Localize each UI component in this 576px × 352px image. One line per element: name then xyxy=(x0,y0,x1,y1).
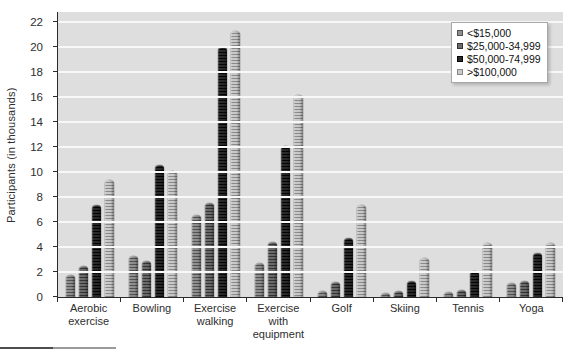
legend-item: >$100,000 xyxy=(457,65,541,78)
bar-group xyxy=(247,12,310,297)
y-axis-tick xyxy=(53,21,58,22)
bar-group xyxy=(311,12,374,297)
y-axis-tick xyxy=(53,71,58,72)
y-tick-label: 0 xyxy=(3,291,43,303)
bar xyxy=(318,291,327,297)
x-category-label: Golf xyxy=(310,302,373,315)
bar xyxy=(331,282,340,297)
y-axis-tick xyxy=(53,246,58,247)
bar xyxy=(142,261,151,297)
bar xyxy=(66,275,75,298)
y-axis-tick xyxy=(53,96,58,97)
bar xyxy=(507,283,516,297)
x-category-label: Yoga xyxy=(500,302,563,315)
gridline xyxy=(58,271,563,273)
legend-item-label: <$15,000 xyxy=(467,27,511,39)
gridline xyxy=(58,96,563,98)
x-category-label: Tennis xyxy=(437,302,500,315)
y-tick-label: 22 xyxy=(3,16,43,28)
bar xyxy=(168,171,177,297)
y-tick-label: 4 xyxy=(3,241,43,253)
y-tick-label: 16 xyxy=(3,91,43,103)
y-axis-tick xyxy=(53,271,58,272)
bar xyxy=(92,205,101,298)
bar-group xyxy=(58,12,121,297)
gridline xyxy=(58,196,563,198)
x-axis-category-labels: Aerobic exerciseBowlingExercise walkingE… xyxy=(57,302,563,348)
gridline xyxy=(58,146,563,148)
bar xyxy=(394,291,403,297)
y-axis-tick xyxy=(53,146,58,147)
y-axis-tick xyxy=(53,196,58,197)
chart-figure: Participants (in thousands) 024681012141… xyxy=(0,0,576,352)
gridline xyxy=(58,121,563,123)
legend-item-label: $50,000-74,999 xyxy=(467,53,541,65)
bar xyxy=(357,205,366,298)
bar xyxy=(444,292,453,297)
x-category-label: Skiing xyxy=(373,302,436,315)
x-category-label: Exercise with equipment xyxy=(247,302,310,341)
legend-marker xyxy=(457,56,463,62)
y-axis-tick xyxy=(53,46,58,47)
y-axis-tick xyxy=(53,171,58,172)
bar-group xyxy=(184,12,247,297)
y-tick-label: 12 xyxy=(3,141,43,153)
legend-marker xyxy=(457,69,463,75)
legend-item-label: >$100,000 xyxy=(467,66,517,78)
page-artifact-line xyxy=(0,347,116,349)
y-axis-tick-labels: 0246810121416182022 xyxy=(0,12,52,298)
bar xyxy=(155,165,164,298)
legend-item: <$15,000 xyxy=(457,26,541,39)
legend-item-label: $25,000-34,999 xyxy=(467,40,541,52)
bar xyxy=(268,242,277,297)
gridline xyxy=(58,246,563,248)
y-axis-tick xyxy=(53,121,58,122)
bar xyxy=(407,281,416,297)
bar-group xyxy=(121,12,184,297)
bar xyxy=(381,293,390,297)
bar xyxy=(129,256,138,297)
y-axis-tick xyxy=(53,221,58,222)
legend-item: $50,000-74,999 xyxy=(457,52,541,65)
gridline xyxy=(58,221,563,223)
bar xyxy=(192,215,201,298)
bar xyxy=(470,271,479,297)
y-tick-label: 8 xyxy=(3,191,43,203)
bar xyxy=(255,263,264,297)
y-tick-label: 18 xyxy=(3,66,43,78)
gridline xyxy=(58,171,563,173)
legend-marker xyxy=(457,30,463,36)
bar xyxy=(520,281,529,297)
bar xyxy=(533,253,542,297)
y-tick-label: 2 xyxy=(3,266,43,278)
y-tick-label: 10 xyxy=(3,166,43,178)
bar xyxy=(420,258,429,297)
y-tick-label: 20 xyxy=(3,41,43,53)
bar-group xyxy=(374,12,437,297)
x-category-label: Aerobic exercise xyxy=(57,302,120,328)
y-tick-label: 14 xyxy=(3,116,43,128)
y-tick-label: 6 xyxy=(3,216,43,228)
bar xyxy=(457,290,466,298)
x-category-label: Exercise walking xyxy=(184,302,247,328)
legend: <$15,000$25,000-34,999$50,000-74,999>$10… xyxy=(451,22,548,83)
legend-item: $25,000-34,999 xyxy=(457,39,541,52)
bar xyxy=(205,203,214,297)
legend-marker xyxy=(457,43,463,49)
x-category-label: Bowling xyxy=(120,302,183,315)
